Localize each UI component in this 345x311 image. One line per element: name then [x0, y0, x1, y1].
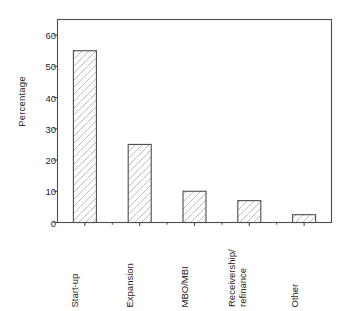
x-axis-tick-label-line: refinance: [238, 249, 249, 307]
bar-fill: [183, 191, 206, 222]
bar-fill: [293, 215, 316, 223]
x-axis-tick-label: Start-up: [70, 273, 81, 307]
x-axis-tick-label-line: Start-up: [70, 273, 81, 307]
x-axis-tick-label: Expansion: [125, 263, 136, 307]
bar-chart-figure: Percentage 0102030405060 Start-upExpansi…: [0, 0, 345, 311]
bar-fill: [238, 201, 261, 223]
x-axis-tick-label: MBO/MBI: [180, 266, 191, 307]
x-axis-tick-label-line: Expansion: [125, 263, 136, 307]
bar-fill: [128, 144, 151, 222]
x-axis-tick-label: Receivership/refinance: [227, 249, 248, 307]
x-axis-tick-label-line: MBO/MBI: [180, 266, 191, 307]
x-axis-tick-label: Other: [289, 283, 300, 307]
bar-fill: [73, 51, 96, 223]
x-axis-tick-label-line: Other: [289, 283, 300, 307]
plot-area: [0, 0, 345, 311]
